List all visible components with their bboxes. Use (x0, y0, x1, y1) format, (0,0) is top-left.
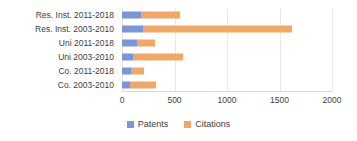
bar-row (122, 82, 156, 89)
x-axis-tick-labels: 0500100015002000 (122, 95, 332, 109)
bar-row (122, 68, 144, 75)
bar-segment-citations (137, 40, 155, 47)
category-label: Res. Inst. 2003-2010 (35, 25, 114, 34)
gridlines (122, 8, 332, 92)
plot-area (122, 8, 332, 92)
legend-swatch-icon (184, 121, 191, 128)
x-tick-label: 1500 (270, 95, 289, 105)
bar-segment-citations (143, 26, 292, 33)
legend-label: Patents (138, 120, 169, 129)
bar-segment-patents (122, 40, 137, 47)
category-axis-labels: Res. Inst. 2011-2018Res. Inst. 2003-2010… (0, 8, 118, 92)
gridline-2000 (332, 8, 333, 92)
bar-segment-patents (122, 68, 131, 75)
x-tick-label: 500 (167, 95, 181, 105)
bar-segment-citations (133, 54, 183, 61)
gridline-500 (175, 8, 176, 92)
bar-row (122, 40, 155, 47)
legend-label: Citations (195, 120, 230, 129)
x-tick-label: 2000 (323, 95, 342, 105)
bar-segment-citations (131, 68, 144, 75)
category-label: Uni 2003-2010 (58, 53, 114, 62)
legend-item-citations[interactable]: Citations (184, 120, 230, 129)
gridline-0 (122, 8, 123, 92)
bar-row (122, 54, 183, 61)
bar-segment-patents (122, 54, 133, 61)
category-label: Uni 2011-2018 (59, 39, 114, 48)
bar-segment-patents (122, 12, 141, 19)
category-label: Co. 2011-2018 (58, 67, 114, 76)
gridline-1000 (227, 8, 228, 92)
chart-legend: PatentsCitations (0, 120, 357, 129)
legend-item-patents[interactable]: Patents (127, 120, 169, 129)
bar-row (122, 26, 292, 33)
bar-segment-citations (130, 82, 155, 89)
category-label: Res. Inst. 2011-2018 (36, 11, 114, 20)
bar-segment-patents (122, 82, 130, 89)
legend-swatch-icon (127, 121, 134, 128)
x-tick-label: 1000 (218, 95, 237, 105)
x-axis-line (122, 91, 332, 92)
stacked-bar-chart: Res. Inst. 2011-2018Res. Inst. 2003-2010… (0, 0, 357, 141)
category-label: Co. 2003-2010 (58, 81, 114, 90)
bar-segment-citations (141, 12, 180, 19)
x-tick-label: 0 (120, 95, 125, 105)
bar-row (122, 12, 180, 19)
gridline-1500 (280, 8, 281, 92)
bar-segment-patents (122, 26, 143, 33)
